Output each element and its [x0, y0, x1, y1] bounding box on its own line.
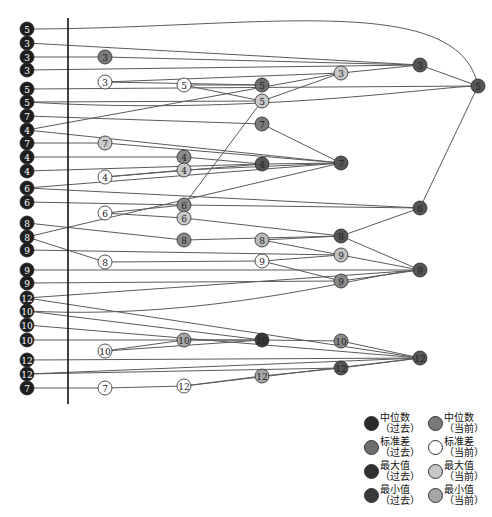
- rank-node: 4: [177, 163, 191, 177]
- left-rank-node: 10: [20, 333, 34, 347]
- node-label: 4: [181, 153, 187, 163]
- node-label: 12: [21, 370, 32, 380]
- node-label: 5: [24, 25, 30, 35]
- legend: 中位数（过去）中位数（当前）标准差（过去）标准差（当前）最大值（过去）最大值（当…: [364, 412, 492, 506]
- node-label: 9: [338, 251, 344, 261]
- left-rank-node: 5: [20, 82, 34, 96]
- rank-node: 6: [177, 198, 191, 212]
- legend-swatch-icon: [428, 464, 443, 479]
- edge-link: [27, 86, 478, 89]
- node-label: 5: [475, 82, 481, 92]
- edge-link: [27, 116, 262, 124]
- left-rank-node: 7: [20, 136, 34, 150]
- legend-label: 最小值（过去）: [380, 484, 420, 506]
- node-label: 10: [21, 321, 33, 331]
- node-label: 6: [24, 198, 30, 208]
- left-node-column: 5333557474466889991210101012127: [20, 22, 34, 395]
- node-label: 7: [24, 112, 30, 122]
- legend-item: 中位数（当前）: [428, 412, 490, 434]
- node-label: 12: [21, 356, 32, 366]
- rank-node: 6: [177, 211, 191, 225]
- edge-link: [105, 57, 420, 65]
- legend-label-period: （当前）: [444, 447, 484, 458]
- edge-link: [341, 208, 420, 236]
- left-rank-node: 9: [20, 243, 34, 257]
- legend-label-period: （过去）: [380, 423, 420, 434]
- node-label: 9: [24, 266, 30, 276]
- node-label: 12: [335, 364, 346, 374]
- left-rank-node: 4: [20, 164, 34, 178]
- rank-node: 4: [98, 170, 112, 184]
- node-label: 8: [24, 219, 30, 229]
- rank-node: 10: [98, 344, 112, 358]
- edge-link: [27, 358, 420, 374]
- edge-link: [341, 255, 420, 270]
- left-rank-node: 7: [20, 109, 34, 123]
- node-label: 4: [24, 167, 30, 177]
- legend-label-period: （当前）: [444, 471, 484, 482]
- node-label: 7: [259, 120, 265, 130]
- left-rank-node: 9: [20, 263, 34, 277]
- left-rank-node: 4: [20, 150, 34, 164]
- node-label: 5: [259, 97, 265, 107]
- edge-layer: [27, 21, 478, 388]
- edge-link: [420, 86, 478, 208]
- rank-node: 4: [255, 157, 269, 171]
- edge-link: [27, 237, 105, 262]
- node-label: 6: [417, 204, 423, 214]
- edge-link: [27, 164, 262, 171]
- node-label: 4: [102, 173, 108, 183]
- legend-label-metric: 标准差: [380, 436, 420, 447]
- rank-node: 10: [255, 333, 269, 347]
- rank-node: 12: [255, 369, 269, 383]
- legend-label-metric: 标准差: [444, 436, 484, 447]
- legend-swatch-icon: [364, 488, 379, 503]
- node-label: 7: [102, 384, 108, 394]
- edge-link: [27, 202, 184, 205]
- legend-label-metric: 最小值: [380, 484, 420, 495]
- node-label: 10: [178, 336, 190, 346]
- legend-swatch-icon: [364, 464, 379, 479]
- edge-link: [262, 340, 341, 341]
- legend-item: 最大值（过去）: [364, 460, 426, 482]
- left-rank-node: 12: [20, 367, 34, 381]
- node-label: 7: [338, 159, 344, 169]
- left-rank-node: 5: [20, 95, 34, 109]
- edge-link: [420, 65, 478, 86]
- node-label: 8: [24, 233, 30, 243]
- left-rank-node: 5: [20, 22, 34, 36]
- edge-link: [341, 236, 420, 270]
- legend-label: 最大值（过去）: [380, 460, 420, 482]
- node-label: 12: [178, 382, 189, 392]
- left-rank-node: 7: [20, 381, 34, 395]
- node-label: 8: [259, 236, 265, 246]
- left-rank-node: 10: [20, 304, 34, 318]
- left-rank-node: 4: [20, 123, 34, 137]
- legend-grid: 中位数（过去）中位数（当前）标准差（过去）标准差（当前）最大值（过去）最大值（当…: [364, 412, 492, 506]
- node-label: 12: [256, 372, 267, 382]
- node-label: 3: [24, 53, 30, 63]
- node-label: 10: [256, 336, 268, 346]
- rank-node: 8: [334, 229, 348, 243]
- edge-link: [27, 311, 262, 340]
- legend-label-metric: 中位数: [444, 412, 484, 423]
- rank-node: 7: [98, 136, 112, 150]
- edge-link: [27, 270, 420, 298]
- edge-link: [27, 43, 420, 65]
- rank-node: 4: [177, 150, 191, 164]
- legend-swatch-icon: [428, 488, 443, 503]
- rank-node: 12: [177, 379, 191, 393]
- edge-link: [27, 101, 262, 102]
- legend-label-metric: 最小值: [444, 484, 484, 495]
- node-label: 8: [338, 232, 344, 242]
- node-label: 6: [102, 209, 108, 219]
- edge-link: [27, 65, 420, 70]
- left-rank-node: 12: [20, 353, 34, 367]
- legend-label-period: （当前）: [444, 423, 484, 434]
- rank-node: 10: [177, 333, 191, 347]
- node-label: 3: [102, 78, 108, 88]
- edge-link: [105, 73, 341, 82]
- legend-item: 中位数（过去）: [364, 412, 426, 434]
- left-rank-node: 9: [20, 276, 34, 290]
- rank-node: 9: [334, 248, 348, 262]
